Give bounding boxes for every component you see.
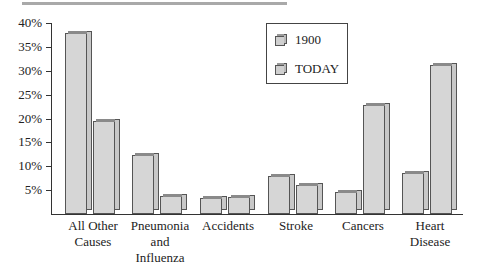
y-tick (46, 142, 52, 143)
y-tick-label: 10% (0, 159, 42, 173)
bar-1900-3 (268, 176, 290, 214)
bar-today-3 (296, 185, 318, 214)
y-tick (46, 47, 52, 48)
y-tick-label: 25% (0, 88, 42, 102)
bar-1900-1 (132, 155, 154, 214)
bar-today-2 (228, 197, 250, 214)
x-axis (51, 214, 463, 215)
bar-1900-5 (402, 173, 424, 214)
bar-today-5 (430, 65, 452, 214)
y-tick-label: 35% (0, 40, 42, 54)
y-tick (46, 119, 52, 120)
y-tick-label: 15% (0, 135, 42, 149)
y-tick-label: 5% (0, 183, 42, 197)
cube-icon (275, 63, 287, 75)
legend: 1900 TODAY (266, 23, 348, 84)
legend-item-1900: 1900 (275, 32, 321, 48)
bar-1900-2 (200, 198, 222, 214)
cube-icon (275, 34, 287, 46)
legend-item-today: TODAY (275, 61, 339, 77)
y-tick-label: 40% (0, 16, 42, 30)
top-rule (22, 2, 287, 5)
y-tick-label: 30% (0, 64, 42, 78)
y-tick-label: 20% (0, 112, 42, 126)
y-tick (46, 71, 52, 72)
legend-label: 1900 (295, 32, 321, 48)
bar-today-0 (93, 121, 115, 214)
y-tick (46, 23, 52, 24)
y-tick (46, 166, 52, 167)
bar-today-4 (363, 105, 385, 214)
bar-1900-4 (335, 192, 357, 214)
y-tick (46, 190, 52, 191)
y-tick (46, 95, 52, 96)
legend-label: TODAY (295, 61, 339, 77)
bar-1900-0 (65, 33, 87, 214)
bar-today-1 (160, 196, 182, 214)
x-tick-label: HeartDisease (390, 218, 470, 250)
